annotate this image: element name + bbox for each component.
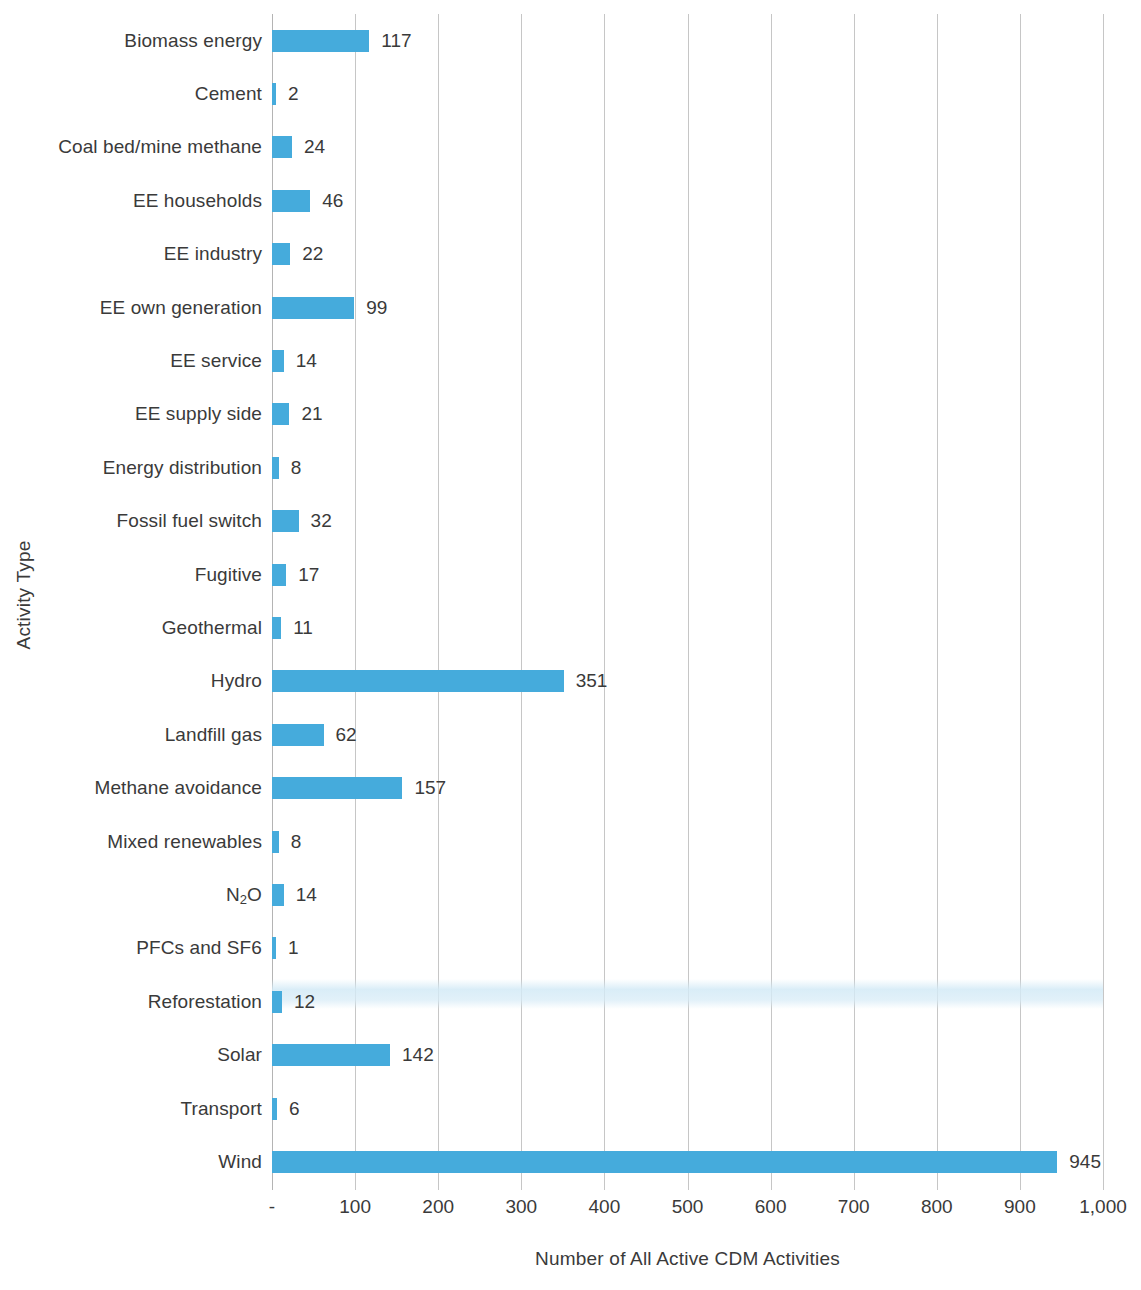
bar [272,83,276,105]
bar-value-label: 12 [294,975,315,1028]
bar [272,297,354,319]
bar-row: Biomass energy117 [0,14,1141,67]
category-label: Fossil fuel switch [0,495,262,548]
bar-row: EE supply side21 [0,388,1141,441]
x-tick-label: 300 [505,1196,537,1218]
category-label: EE households [0,174,262,227]
bar-value-label: 351 [576,655,608,708]
category-label: Biomass energy [0,14,262,67]
category-label: PFCs and SF6 [0,922,262,975]
category-label: EE own generation [0,281,262,334]
category-label: Transport [0,1082,262,1135]
x-tick-label: 900 [1004,1196,1036,1218]
bar-value-label: 6 [289,1082,300,1135]
bar-value-label: 2 [288,67,299,120]
bar-row: Landfill gas62 [0,708,1141,761]
bar [272,670,564,692]
bar [272,190,310,212]
category-label: Wind [0,1135,262,1188]
bar-row: Hydro351 [0,655,1141,708]
x-tick-label: 400 [589,1196,621,1218]
bar-value-label: 14 [296,334,317,387]
bar-row: N2O14 [0,868,1141,921]
bar [272,403,289,425]
bar [272,831,279,853]
bar-value-label: 14 [296,868,317,921]
bar-value-label: 1 [288,922,299,975]
bar-value-label: 157 [414,762,446,815]
x-tick-label: 700 [838,1196,870,1218]
bar-row: Transport6 [0,1082,1141,1135]
bar-value-label: 8 [291,441,302,494]
bar-value-label: 22 [302,228,323,281]
bar-row: Cement2 [0,67,1141,120]
bar-value-label: 21 [301,388,322,441]
category-label: EE service [0,334,262,387]
category-label: N2O [0,868,262,921]
bar [272,777,402,799]
bar-value-label: 11 [293,601,313,654]
category-label: Landfill gas [0,708,262,761]
bar-row: Fossil fuel switch32 [0,495,1141,548]
bar-row: PFCs and SF61 [0,922,1141,975]
bar [272,724,324,746]
bar-row: EE own generation99 [0,281,1141,334]
bar-value-label: 945 [1069,1135,1101,1188]
category-label: EE supply side [0,388,262,441]
bar [272,1151,1057,1173]
bar-row: Solar142 [0,1029,1141,1082]
category-label: Energy distribution [0,441,262,494]
category-label: Hydro [0,655,262,708]
category-label: Cement [0,67,262,120]
category-label: Solar [0,1029,262,1082]
category-label: Methane avoidance [0,762,262,815]
bar-row: Coal bed/mine methane24 [0,121,1141,174]
bar [272,884,284,906]
category-label: EE industry [0,228,262,281]
bar-value-label: 8 [291,815,302,868]
bar-value-label: 17 [298,548,319,601]
x-tick-label: 200 [422,1196,454,1218]
bar-row: Methane avoidance157 [0,762,1141,815]
category-label: Mixed renewables [0,815,262,868]
category-label: Coal bed/mine methane [0,121,262,174]
category-label: Fugitive [0,548,262,601]
bar-value-label: 46 [322,174,343,227]
bar [272,136,292,158]
bar-row: Mixed renewables8 [0,815,1141,868]
bar-value-label: 32 [311,495,332,548]
x-tick-label: 1,000 [1079,1196,1127,1218]
bar [272,1044,390,1066]
bar [272,1098,277,1120]
bar-value-label: 24 [304,121,325,174]
x-tick-label: 800 [921,1196,953,1218]
bar-row: Fugitive17 [0,548,1141,601]
bar-chart: Activity Type Biomass energy117Cement2Co… [0,0,1141,1290]
x-axis-tick-labels: -1002003004005006007008009001,000 [272,1196,1103,1226]
bar [272,457,279,479]
x-tick-label: - [269,1196,275,1218]
x-axis-title: Number of All Active CDM Activities [272,1248,1103,1270]
bar [272,510,299,532]
bar [272,350,284,372]
bar-row: EE industry22 [0,228,1141,281]
bar [272,243,290,265]
bar-row: Reforestation12 [0,975,1141,1028]
bar-value-label: 62 [336,708,357,761]
x-tick-label: 500 [672,1196,704,1218]
bar-value-label: 99 [366,281,387,334]
bar-row: Wind945 [0,1135,1141,1188]
bar [272,30,369,52]
bar [272,991,282,1013]
x-tick-label: 100 [339,1196,371,1218]
bar-row: EE households46 [0,174,1141,227]
bar-row: EE service14 [0,334,1141,387]
bar [272,564,286,586]
category-label: Geothermal [0,601,262,654]
bar [272,937,276,959]
bar-row: Energy distribution8 [0,441,1141,494]
bar-value-label: 117 [381,14,411,67]
bar-value-label: 142 [402,1029,434,1082]
plot-area: Biomass energy117Cement2Coal bed/mine me… [272,14,1103,1190]
x-tick-label: 600 [755,1196,787,1218]
